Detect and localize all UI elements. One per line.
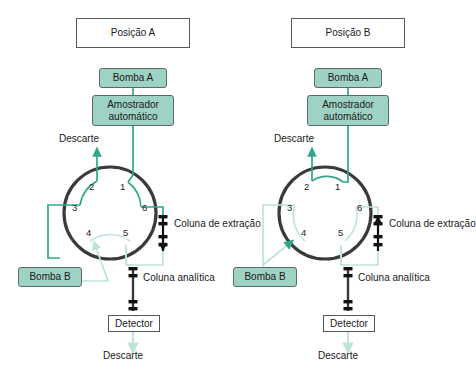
analytical-frit-a-2 [129,274,138,277]
panel-a-paths [48,88,168,348]
panel-b-port-4: 4 [301,227,306,238]
panel-a-pump-a-box[interactable]: Bomba A [99,68,167,88]
panel-a-port-4: 4 [86,227,91,238]
panel-b-waste-bottom-label: Descarte [318,350,358,361]
analytical-frit-a-4 [129,307,138,310]
column-frit-b-4 [374,243,383,246]
valve-ring-a [64,167,156,259]
panel-b-pump-b-box[interactable]: Bomba B [233,267,297,287]
line-pump-b-b-arrow [263,243,290,265]
panel-a-pump-a-label: Bomba A [113,72,154,83]
panel-a-port-5: 5 [123,227,128,238]
analytical-frit-a-3 [129,300,138,303]
panel-b-port-5: 5 [338,227,343,238]
panel-a-waste-top-label: Descarte [59,133,99,144]
panel-a-sampler-label: Amostrador automático [93,99,173,121]
panel-a-port-3: 3 [72,202,77,213]
analytical-frit-b-1 [344,267,353,270]
panel-a-pump-b-label: Bomba B [29,271,70,282]
panel-b-extraction-column-label: Coluna de extração [389,218,441,230]
panel-b-detector-box[interactable]: Detector [323,315,375,332]
panel-a-title-box: Posição A [76,18,190,48]
panel-b-title: Posição B [325,27,370,38]
panel-a-waste-bottom-label: Descarte [103,350,143,361]
column-frit-a-2 [159,222,168,225]
column-frit-a-3 [159,235,168,238]
panel-b-port-3: 3 [287,202,292,213]
panel-b-port-1: 1 [335,181,340,192]
column-frit-a-4 [159,243,168,246]
panel-b-paths [263,88,383,348]
analytical-frit-b-3 [344,300,353,303]
panel-a-port-6: 6 [142,202,147,213]
analytical-frit-a-1 [129,267,138,270]
panel-a-detector-label: Detector [115,318,153,329]
panel-b-pump-b-label: Bomba B [244,271,285,282]
column-frit-b-3 [374,235,383,238]
panel-a-port-2: 2 [89,181,94,192]
panel-b-detector-label: Detector [330,318,368,329]
panel-a-title: Posição A [111,27,155,38]
valve-arc-a-1-6 [128,182,141,207]
panel-a-sampler-box[interactable]: Amostrador automático [92,95,174,126]
panel-b-sampler-box[interactable]: Amostrador automático [307,95,389,126]
panel-b-pump-a-box[interactable]: Bomba A [314,68,382,88]
panel-a-analytical-column-label: Coluna analítica [143,272,191,284]
panel-b-sampler-label: Amostrador automático [308,99,388,121]
column-frit-b-2 [374,222,383,225]
panel-a-detector-box[interactable]: Detector [108,315,160,332]
panel-b-pump-a-label: Bomba A [328,72,369,83]
panel-b-port-2: 2 [304,181,309,192]
panel-a-extraction-column-label: Coluna de extração [174,218,234,230]
panel-b-port-6: 6 [357,202,362,213]
panel-a-port-1: 1 [120,181,125,192]
panel-b-waste-top-label: Descarte [274,133,314,144]
column-frit-a-1 [159,215,168,218]
analytical-frit-b-4 [344,307,353,310]
panel-b-title-box: Posição B [291,18,405,48]
column-frit-b-1 [374,215,383,218]
analytical-frit-b-2 [344,274,353,277]
panel-b-analytical-column-label: Coluna analítica [358,272,406,284]
panel-a-pump-b-box[interactable]: Bomba B [18,267,82,287]
valve-arc-b-5-6 [345,207,357,241]
